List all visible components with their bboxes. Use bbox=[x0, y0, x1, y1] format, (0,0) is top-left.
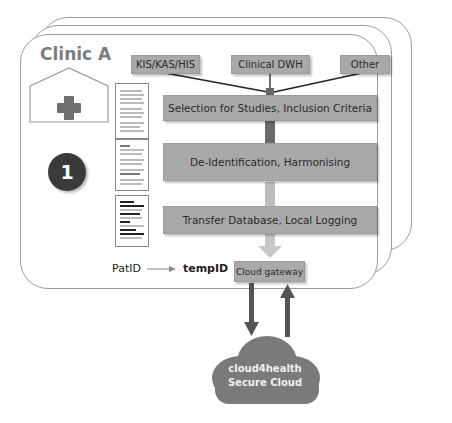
source-label: Clinical DWH bbox=[238, 59, 302, 70]
arrow-right-icon bbox=[147, 265, 177, 273]
source-kis-kas-his: KIS/KAS/HIS bbox=[131, 55, 200, 74]
source-clinical-dwh: Clinical DWH bbox=[231, 55, 310, 74]
step-selection: Selection for Studies, Inclusion Criteri… bbox=[163, 95, 377, 121]
cloud-label: cloud4health Secure Cloud bbox=[205, 362, 325, 390]
source-label: Other bbox=[351, 59, 379, 70]
step-label: Selection for Studies, Inclusion Criteri… bbox=[168, 102, 372, 114]
step-deidentification: De-Identification, Harmonising bbox=[163, 143, 377, 181]
id-mapping: PatID tempID bbox=[112, 262, 228, 275]
gateway-label: Cloud gateway bbox=[236, 267, 303, 277]
patid-label: PatID bbox=[112, 262, 141, 275]
step-label: De-Identification, Harmonising bbox=[190, 156, 350, 168]
cloud-label-line1: cloud4health bbox=[205, 362, 325, 376]
cloud-gateway: Cloud gateway bbox=[234, 261, 305, 282]
tempid-label: tempID bbox=[183, 262, 228, 275]
source-label: KIS/KAS/HIS bbox=[136, 59, 195, 70]
cloud-label-line2: Secure Cloud bbox=[205, 376, 325, 390]
source-other: Other bbox=[340, 55, 390, 74]
step-transfer-database: Transfer Database, Local Logging bbox=[163, 206, 377, 234]
step-label: Transfer Database, Local Logging bbox=[183, 214, 358, 226]
